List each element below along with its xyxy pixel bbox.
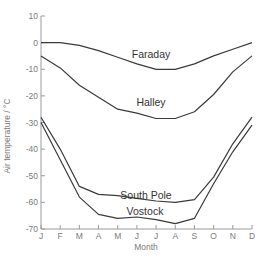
- series-labels: FaradayHalleySouth PoleVostock: [120, 48, 172, 217]
- x-axis-title: Month: [134, 242, 158, 252]
- label-halley: Halley: [136, 96, 166, 108]
- x-tick-label: N: [230, 231, 236, 241]
- x-tick-label: S: [192, 231, 198, 241]
- y-tick-label: -50: [26, 171, 39, 181]
- y-tick-label: -70: [26, 224, 39, 234]
- x-tick-label: M: [76, 231, 83, 241]
- x-tick-label: O: [210, 231, 217, 241]
- y-axis-title: Air temperature / °C: [2, 98, 12, 173]
- x-tick-label: D: [249, 231, 255, 241]
- x-tick-label: A: [96, 231, 102, 241]
- x-axis: JFMAMJJASOND: [39, 225, 255, 241]
- y-tick-label: -10: [26, 64, 39, 74]
- label-south-pole: South Pole: [120, 189, 172, 201]
- y-axis: 100-10-20-30-40-50-60-70: [26, 11, 45, 234]
- x-tick-label: A: [172, 231, 178, 241]
- y-tick-label: 10: [29, 11, 39, 21]
- y-tick-label: -30: [26, 118, 39, 128]
- x-tick-label: M: [114, 231, 121, 241]
- x-tick-label: J: [39, 231, 43, 241]
- y-tick-label: -60: [26, 197, 39, 207]
- x-tick-label: J: [135, 231, 139, 241]
- label-vostock: Vostock: [127, 205, 165, 217]
- series-line-halley: [41, 56, 252, 119]
- x-tick-label: J: [154, 231, 158, 241]
- label-faraday: Faraday: [132, 48, 171, 60]
- y-tick-label: -20: [26, 91, 39, 101]
- y-tick-label: -40: [26, 144, 39, 154]
- temperature-line-chart: 100-10-20-30-40-50-60-70 JFMAMJJASOND Fa…: [0, 0, 268, 263]
- y-tick-label: 0: [33, 38, 38, 48]
- x-tick-label: F: [58, 231, 63, 241]
